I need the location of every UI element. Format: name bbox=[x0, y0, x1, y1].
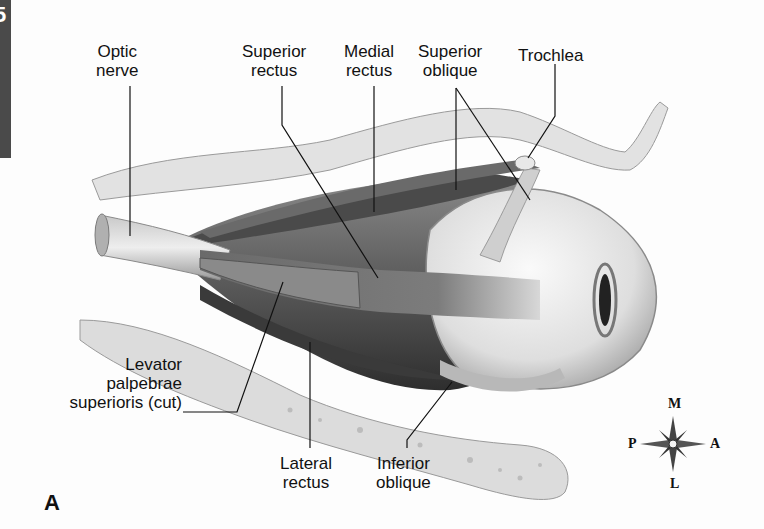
label-inferior-oblique: Inferior oblique bbox=[376, 454, 431, 492]
compass-label-lateral: L bbox=[670, 476, 679, 492]
label-trochlea: Trochlea bbox=[518, 46, 584, 65]
label-superior-oblique: Superior oblique bbox=[418, 42, 482, 80]
label-medial-rectus: Medial rectus bbox=[344, 42, 394, 80]
label-superior-rectus: Superior rectus bbox=[242, 42, 306, 80]
compass-label-medial: M bbox=[668, 396, 681, 412]
compass-label-anterior: A bbox=[710, 436, 720, 452]
trochlea-shape bbox=[515, 156, 535, 170]
orientation-compass bbox=[640, 416, 706, 472]
panel-letter: A bbox=[44, 490, 60, 516]
label-levator-palpebrae-superioris: Levator palpebrae superioris (cut) bbox=[44, 355, 182, 412]
label-optic-nerve: Optic nerve bbox=[96, 42, 139, 80]
compass-label-posterior: P bbox=[628, 436, 637, 452]
label-lateral-rectus: Lateral rectus bbox=[280, 454, 332, 492]
